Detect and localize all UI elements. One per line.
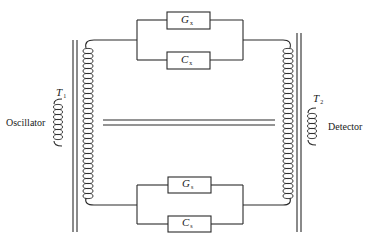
right-winding-top	[243, 40, 290, 48]
gx-label: Gx	[181, 13, 193, 26]
oscillator-label: Oscillator	[6, 117, 45, 128]
right-main-coil	[283, 48, 293, 198]
cx-label: Cx	[181, 53, 192, 66]
t2-label: T2	[313, 92, 323, 105]
left-winding-bottom	[86, 198, 137, 205]
t1-label: T1	[56, 86, 66, 99]
left-winding-top	[86, 40, 137, 48]
circuit-diagram	[0, 0, 372, 242]
cs-label: Cs	[182, 216, 193, 229]
gs-label: Gs	[182, 177, 193, 190]
left-main-coil	[83, 48, 93, 198]
detector-label: Detector	[328, 121, 362, 132]
right-winding-bottom	[243, 198, 290, 205]
